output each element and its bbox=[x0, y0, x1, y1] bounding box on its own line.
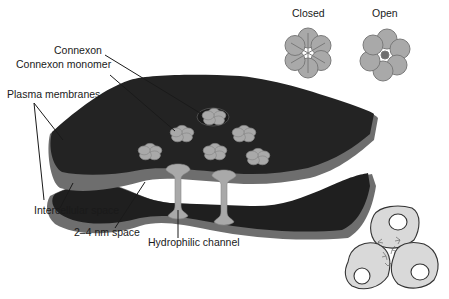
closed-state-label: Closed bbox=[292, 7, 325, 19]
closed-connexon-inset bbox=[285, 28, 331, 78]
hydrophilic-channel-label: Hydrophilic channel bbox=[148, 236, 240, 248]
connexon-monomer-label: Connexon monomer bbox=[16, 58, 111, 70]
plasma-membranes-label: Plasma membranes bbox=[7, 88, 100, 100]
nm-space-label: 2–4 nm space bbox=[74, 226, 140, 238]
connexon-label: Connexon bbox=[54, 44, 102, 56]
intercellular-space-label: Intercellular space bbox=[34, 204, 119, 216]
open-connexon-inset bbox=[360, 29, 410, 81]
open-state-label: Open bbox=[372, 7, 398, 19]
